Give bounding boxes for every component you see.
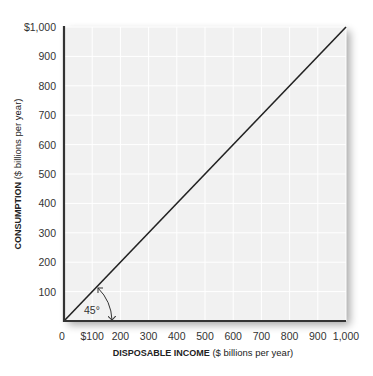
y-tick-label: 700 xyxy=(38,109,56,121)
x-tick-label: 900 xyxy=(309,330,327,342)
x-axis-title-bold: DISPOSABLE INCOME xyxy=(113,348,210,358)
x-tick-label: 700 xyxy=(253,330,271,342)
x-tick-label: 400 xyxy=(168,330,186,342)
y-axis-title-rest: ($ billions per year) xyxy=(12,99,23,182)
y-tick-label: 900 xyxy=(38,50,56,62)
x-tick-label: 300 xyxy=(140,330,158,342)
x-axis-title-rest: ($ billions per year) xyxy=(210,347,293,358)
x-axis-title: DISPOSABLE INCOME ($ billions per year) xyxy=(113,347,293,358)
x-tick-label: $100 xyxy=(81,330,105,342)
chart: 45° 100200300400500600700800900$1,000 0$… xyxy=(0,0,373,376)
y-tick-label: 100 xyxy=(38,286,56,298)
y-tick-label: 400 xyxy=(38,197,56,209)
y-tick-label: 200 xyxy=(38,256,56,268)
x-tick-label: 500 xyxy=(196,330,214,342)
y-tick-label: 300 xyxy=(38,227,56,239)
x-tick-label: 200 xyxy=(112,330,130,342)
y-axis-title-bold: CONSUMPTION xyxy=(13,182,23,250)
y-tick-label: 800 xyxy=(38,80,56,92)
angle-label: 45° xyxy=(84,304,100,316)
x-tick-label: 1,000 xyxy=(333,330,359,342)
x-tick-label: 0 xyxy=(59,330,65,342)
y-tick-labels: 100200300400500600700800900$1,000 xyxy=(24,21,56,298)
y-axis-title: CONSUMPTION ($ billions per year) xyxy=(12,99,23,250)
x-tick-label: 600 xyxy=(224,330,242,342)
x-tick-labels: 0$1002003004005006007008009001,000 xyxy=(59,330,359,342)
y-tick-label: 600 xyxy=(38,139,56,151)
x-tick-label: 800 xyxy=(281,330,299,342)
y-tick-label: $1,000 xyxy=(24,21,56,33)
y-tick-label: 500 xyxy=(38,168,56,180)
